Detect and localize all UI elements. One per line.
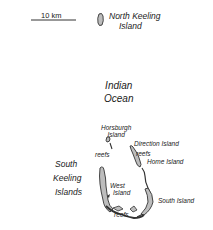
south-keeling-islands-label: South Keeling Islands [55,157,82,199]
south-island-label: South Island [158,197,194,204]
north-keeling-island-shape [98,13,104,25]
scale-label: 10 km [41,11,61,20]
map-canvas [0,0,213,230]
indian-ocean-label: Indian Ocean [104,79,133,105]
north-keeling-label: North Keeling Island [109,11,161,31]
home-island-label: Home Island [147,158,184,165]
west-island-label: West Island [110,182,130,196]
horsburgh-label: Horsburgh Island [101,124,131,138]
reefs-label-north: reefs [95,151,109,158]
reefs-label-east: reefs [136,150,150,157]
south-island-shape [141,188,153,215]
reefs-label-south: reefs [114,211,128,218]
direction-island-label: Direction Island [134,140,179,147]
